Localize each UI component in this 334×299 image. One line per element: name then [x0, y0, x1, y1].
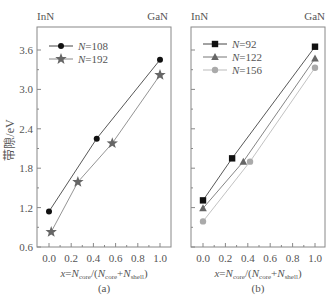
panel-b-top-left-label: InN — [191, 10, 208, 22]
y-tick-label: 1.2 — [19, 202, 33, 214]
series-n108 — [46, 57, 163, 215]
legend-label: N=192 — [77, 53, 108, 65]
panel-b-legend: N=92N=122N=156 — [203, 38, 263, 76]
panel-a-top-left-label: InN — [37, 10, 54, 22]
panel-b-y-ticks — [191, 50, 195, 247]
series-n192 — [46, 69, 166, 237]
y-tick-label: 2.4 — [19, 123, 33, 135]
panel-a-legend: N=108N=192 — [49, 40, 109, 65]
panel-a-caption: (a) — [98, 282, 111, 295]
legend-item: N=156 — [203, 64, 263, 76]
legend-circle-marker-icon — [212, 67, 218, 73]
series-line — [49, 60, 160, 212]
panel-b-x-ticks: 0.00.20.40.60.81.0 — [196, 243, 322, 264]
legend-diamond-marker-icon — [58, 43, 64, 49]
x-tick-label: 0.8 — [131, 252, 145, 264]
legend-item: N=92 — [203, 38, 257, 50]
series-line — [203, 59, 315, 209]
circle-marker-icon — [247, 158, 253, 164]
x-tick-label: 1.0 — [153, 252, 167, 264]
x-tick-label: 1.0 — [308, 252, 322, 264]
panel-a-top-right-label: GaN — [147, 10, 168, 22]
panel-b: InN GaN 0.00.20.40.60.81.0 N=92N=122N=15… — [191, 10, 325, 295]
triangle-marker-icon — [240, 158, 248, 165]
panel-a-x-ticks: 0.00.20.40.60.81.0 — [42, 243, 167, 264]
legend-item: N=108 — [49, 40, 109, 52]
panel-a-series — [46, 57, 166, 237]
x-tick-label: 0.6 — [263, 252, 277, 264]
panel-a: InN GaN 0.61.21.82.43.03.6 0.00.20.40.60… — [19, 10, 171, 295]
legend-item: N=122 — [203, 51, 262, 63]
series-n122 — [199, 55, 319, 212]
square-marker-icon — [312, 44, 318, 50]
legend-square-marker-icon — [212, 41, 218, 47]
star-marker-icon — [107, 137, 118, 148]
circle-marker-icon — [312, 65, 318, 71]
panel-a-y-ticks: 0.61.21.82.43.03.6 — [19, 44, 41, 253]
legend-star-marker-icon — [55, 53, 66, 64]
x-tick-label: 0.4 — [87, 252, 101, 264]
series-line — [51, 75, 160, 232]
y-tick-label: 0.6 — [19, 241, 33, 253]
legend-label: N=156 — [231, 64, 263, 76]
legend-label: N=122 — [231, 51, 262, 63]
panel-b-top-right-label: GaN — [304, 10, 325, 22]
legend-label: N=108 — [77, 40, 109, 52]
y-tick-label: 1.8 — [19, 162, 33, 174]
legend-label: N=92 — [231, 38, 257, 50]
y-tick-label: 3.6 — [19, 44, 33, 56]
panel-b-x-axis-title: x=Ncore/(Ncore+Nshell) — [213, 267, 301, 281]
x-tick-label: 0.6 — [109, 252, 123, 264]
panel-a-x-axis-title: x=Ncore/(Ncore+Nshell) — [59, 267, 147, 281]
figure: 带隙/eV InN GaN 0.61.21.82.43.03.6 0.00.20… — [0, 0, 334, 299]
diamond-marker-icon — [94, 136, 100, 142]
series-n156 — [200, 65, 318, 225]
panel-b-caption: (b) — [252, 282, 265, 295]
circle-marker-icon — [200, 218, 206, 224]
x-tick-label: 0.8 — [286, 252, 300, 264]
legend-item: N=192 — [49, 53, 108, 65]
triangle-marker-icon — [311, 55, 319, 62]
x-tick-label: 0.0 — [42, 252, 56, 264]
y-tick-label: 3.0 — [19, 83, 33, 95]
x-tick-label: 0.4 — [241, 252, 255, 264]
diamond-marker-icon — [157, 57, 163, 63]
x-tick-label: 0.2 — [219, 252, 233, 264]
square-marker-icon — [200, 197, 206, 203]
x-tick-label: 0.0 — [196, 252, 210, 264]
x-tick-label: 0.2 — [64, 252, 78, 264]
y-axis-title: 带隙/eV — [3, 119, 17, 161]
square-marker-icon — [229, 155, 235, 161]
diamond-marker-icon — [46, 209, 52, 215]
star-marker-icon — [46, 226, 57, 237]
star-marker-icon — [154, 69, 165, 80]
series-line — [203, 68, 315, 222]
